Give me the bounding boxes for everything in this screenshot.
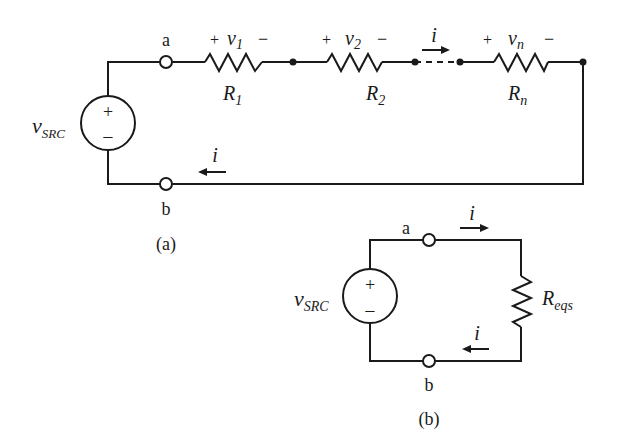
wire-a-top-left: [108, 62, 160, 96]
r1-plus: +: [210, 31, 219, 48]
terminal-a-icon: [160, 56, 172, 68]
r2-label: R2: [365, 82, 385, 108]
circuit-b: + − vSRC a b Reqs i i (b): [294, 202, 573, 430]
arrowhead-icon: [480, 224, 489, 232]
resistor-r1-icon: [205, 54, 262, 71]
terminal-a-icon: [423, 234, 435, 246]
caption-a: (a): [156, 234, 176, 255]
circuit-a: + − vSRC a b + v1 − R1 + v2 − R2: [32, 24, 587, 255]
rn-minus: −: [544, 29, 554, 49]
resistor-rn-icon: [494, 54, 548, 71]
arrowhead-icon: [198, 168, 207, 176]
v2-label: v2: [345, 27, 361, 52]
source-plus: +: [365, 275, 375, 295]
r1-label: R1: [222, 82, 242, 108]
vn-label: vn: [508, 27, 524, 52]
caption-b: (b): [419, 409, 440, 430]
terminal-b-icon: [160, 178, 172, 190]
current-top-label: i: [469, 202, 475, 224]
current-bottom-label: i: [212, 144, 218, 166]
wire-a-return: [172, 62, 583, 184]
series-circuit-diagram: + − vSRC a b + v1 − R1 + v2 − R2: [0, 0, 617, 447]
node-a-label: a: [402, 218, 410, 238]
v1-label: v1: [227, 27, 243, 52]
r1-minus: −: [258, 29, 268, 49]
junction-dot-icon: [290, 59, 297, 66]
arrowhead-icon: [441, 46, 450, 54]
current-bottom-label: i: [474, 322, 480, 344]
wire-b-top-right: [435, 240, 521, 276]
req-label: Reqs: [541, 287, 573, 313]
wire-b-bottom-left: [370, 323, 423, 361]
node-b-label: b: [425, 375, 434, 395]
r2-minus: −: [377, 29, 387, 49]
resistor-r2-icon: [327, 54, 382, 71]
arrowhead-icon: [462, 345, 471, 353]
terminal-b-icon: [423, 355, 435, 367]
source-minus: −: [364, 300, 375, 322]
current-top-label: i: [431, 24, 437, 46]
rn-label: Rn: [507, 82, 527, 108]
rn-plus: +: [483, 31, 492, 48]
node-a-label: a: [162, 30, 170, 50]
resistor-req-icon: [513, 276, 531, 327]
wire-b-top-left: [370, 240, 423, 269]
r2-plus: +: [322, 31, 331, 48]
wire-a-bottom-left: [108, 150, 160, 184]
source-minus: −: [102, 126, 113, 148]
source-label: vSRC: [294, 286, 329, 314]
junction-dot-icon: [580, 59, 587, 66]
source-plus: +: [103, 102, 113, 122]
node-b-label: b: [162, 199, 171, 219]
source-label: vSRC: [32, 113, 65, 141]
